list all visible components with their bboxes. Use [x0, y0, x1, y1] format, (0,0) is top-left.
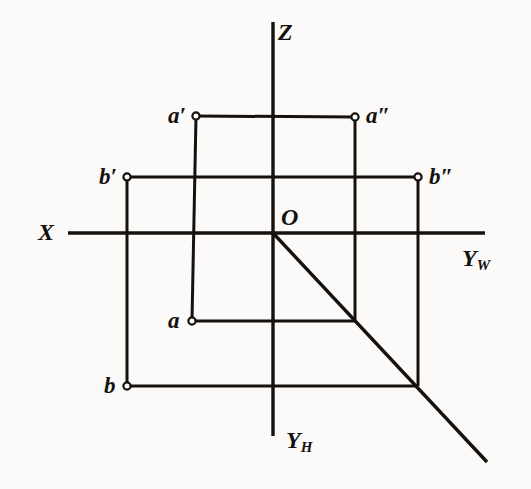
origin-label-text: O — [281, 204, 298, 230]
point-label-b-double-prime: b″ — [429, 165, 454, 188]
line-work-group — [68, 22, 487, 462]
point-label-a-double-prime: a″ — [366, 104, 391, 127]
point-label-a-prime-prime: ′ — [180, 103, 187, 128]
point-label-b-plain-letter: b — [104, 373, 116, 398]
axis-label-yw-subscript: W — [477, 257, 490, 273]
axis-label-z-text: Z — [278, 19, 293, 45]
projection-diagram-figure: Z X YW YH O a′a″b′b″ab — [0, 0, 531, 489]
projection-line-a-prime-to-a-double-prime-horizontal — [196, 116, 355, 117]
point-marker-a-prime — [192, 112, 199, 119]
diagram-canvas — [0, 0, 531, 489]
point-label-a-double-prime-letter: a — [366, 103, 378, 128]
point-label-a-prime-letter: a — [168, 103, 180, 128]
axis-label-x: X — [38, 220, 54, 244]
axis-label-z: Z — [278, 20, 293, 44]
point-label-a-prime: a′ — [168, 104, 186, 127]
point-marker-b-double-prime — [414, 173, 421, 180]
axis-label-yh: YH — [286, 428, 312, 455]
point-label-b-prime: b′ — [99, 165, 117, 188]
point-label-b-prime-prime: ′ — [111, 164, 118, 189]
point-marker-a-double-prime — [351, 113, 358, 120]
axis-label-yw-text: Y — [462, 245, 477, 271]
axis-label-x-text: X — [38, 219, 54, 245]
point-label-b-plain: b — [104, 374, 116, 397]
point-label-b-double-prime-letter: b — [429, 164, 441, 189]
point-marker-b-prime — [123, 173, 130, 180]
origin-label: O — [281, 205, 298, 229]
point-marker-b-plain — [123, 382, 130, 389]
axis-label-yh-subscript: H — [301, 439, 313, 455]
point-label-a-plain-letter: a — [168, 308, 180, 333]
point-label-a-double-prime-prime: ″ — [378, 103, 391, 128]
projection-line-a-prime-to-a-vertical — [192, 116, 196, 321]
axis-label-yh-text: Y — [286, 427, 301, 453]
point-label-a-plain: a — [168, 309, 180, 332]
axis-label-yw: YW — [462, 246, 490, 273]
point-label-b-double-prime-prime: ″ — [441, 164, 454, 189]
point-label-b-prime-letter: b — [99, 164, 111, 189]
point-marker-a-plain — [188, 317, 195, 324]
